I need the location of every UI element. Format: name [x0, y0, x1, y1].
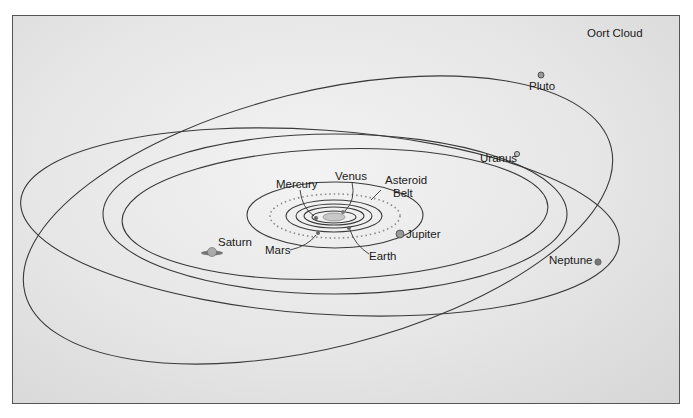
- solar-system-diagram: [0, 0, 693, 418]
- asteroid-belt-label-line2: Belt: [393, 187, 413, 200]
- oort-cloud-label: Oort Cloud: [587, 27, 643, 40]
- mars-label: Mars: [265, 244, 291, 257]
- neptune-label: Neptune: [549, 254, 592, 267]
- uranus-label: Uranus: [480, 152, 517, 165]
- pluto-icon: [538, 72, 544, 78]
- venus-leader: [345, 182, 353, 211]
- sun-icon: [323, 213, 345, 221]
- neptune-icon: [595, 259, 601, 265]
- venus-label: Venus: [335, 170, 367, 183]
- venus-icon: [341, 210, 345, 214]
- jupiter-icon: [396, 230, 404, 238]
- mars-icon: [316, 231, 320, 235]
- jupiter-label: Jupiter: [406, 228, 441, 241]
- earth-label: Earth: [369, 250, 397, 263]
- asteroid-belt-label-line1: Asteroid: [385, 174, 427, 187]
- earth-leader: [350, 230, 369, 254]
- mercury-icon: [314, 216, 318, 220]
- mercury-label: Mercury: [276, 178, 318, 191]
- saturn-label: Saturn: [218, 236, 252, 249]
- asteroid-belt-leader: [371, 190, 381, 200]
- pluto-label: Pluto: [529, 80, 555, 93]
- earth-icon: [347, 226, 351, 230]
